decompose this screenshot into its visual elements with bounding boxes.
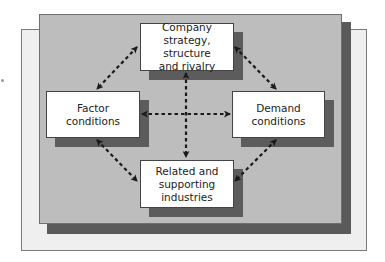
arrow-factor-related [97,140,137,181]
arrow-demand-related [235,140,276,181]
factor-conditions-box: Factor conditions [46,91,140,138]
arrow-strategy-demand [235,47,276,89]
related-supporting-industries-box: Related and supporting industries [140,160,234,208]
demand-box-label: Demand conditions [251,102,305,128]
strategy-box-label: Company strategy, structure and rivalry [141,21,233,73]
related-box-label: Related and supporting industries [156,165,219,204]
factor-box-label: Factor conditions [66,102,120,128]
arrow-strategy-factor [97,47,137,89]
strategy-structure-rivalry-box: Company strategy, structure and rivalry [140,23,234,71]
demand-conditions-box: Demand conditions [232,91,325,138]
